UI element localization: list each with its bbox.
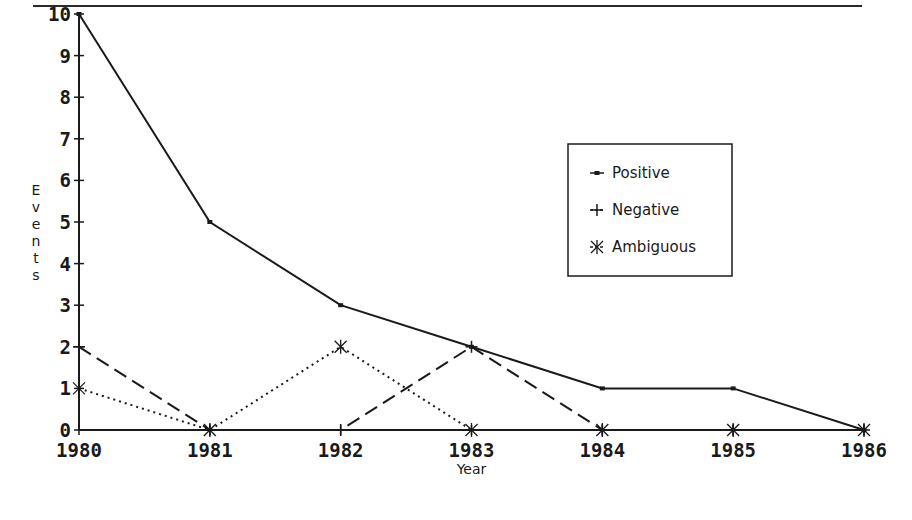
series-ambiguous	[73, 340, 870, 437]
square-marker-icon	[731, 386, 736, 390]
y-tick-label: 9	[60, 45, 71, 67]
legend-label: Negative	[612, 201, 679, 219]
square-marker-icon	[77, 12, 82, 16]
y-tick-label: 1	[60, 377, 71, 399]
series-line	[79, 14, 864, 430]
y-tick-label: 3	[60, 294, 71, 316]
x-tick-label: 1981	[187, 439, 233, 461]
y-tick-label: 4	[60, 253, 71, 275]
y-tick-label: 5	[60, 211, 71, 233]
x-tick-label: 1985	[710, 439, 756, 461]
x-tick-label: 1986	[841, 439, 887, 461]
legend-label: Positive	[612, 164, 670, 182]
x-tick-label: 1980	[56, 439, 102, 461]
y-tick-label: 6	[60, 169, 71, 191]
series-line	[79, 347, 864, 430]
y-axis-title: Events	[32, 182, 41, 283]
y-tick-label: 7	[60, 128, 71, 150]
line-chart: 0123456789101980198119821983198419851986…	[0, 0, 912, 520]
y-tick-label: 0	[60, 419, 71, 441]
series-layer	[73, 12, 870, 437]
x-tick-label: 1983	[449, 439, 495, 461]
y-tick-label: 2	[60, 336, 71, 358]
series-positive	[77, 12, 867, 432]
square-marker-icon	[207, 220, 212, 224]
series-negative	[73, 341, 870, 436]
square-marker-icon	[600, 386, 605, 390]
axes: 0123456789101980198119821983198419851986	[48, 3, 887, 461]
square-marker-icon	[338, 303, 343, 307]
series-line	[79, 347, 864, 430]
y-tick-label: 10	[48, 3, 71, 25]
square-marker-icon	[595, 171, 600, 175]
x-tick-label: 1982	[318, 439, 364, 461]
legend: PositiveNegativeAmbiguous	[568, 144, 732, 276]
x-tick-label: 1984	[579, 439, 625, 461]
x-axis-title: Year	[456, 461, 487, 477]
y-tick-label: 8	[60, 86, 71, 108]
legend-label: Ambiguous	[612, 238, 696, 256]
